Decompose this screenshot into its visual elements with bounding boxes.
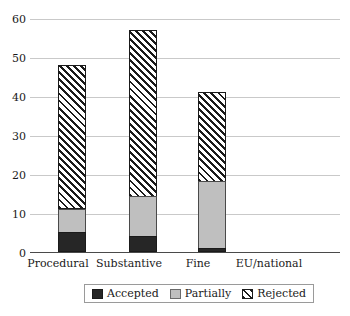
bar-segment-accepted [58, 232, 86, 252]
bar-segment-accepted [198, 248, 226, 252]
stacked-bar-chart: 60 50 40 30 20 10 0 [0, 0, 350, 316]
bar-segment-partially [198, 181, 226, 249]
bar-group-substantive [129, 30, 157, 252]
legend-swatch-partially-icon [170, 289, 181, 299]
x-axis-label-eu-national: EU/national [224, 258, 314, 270]
y-axis-tick-label-50: 50 [0, 53, 26, 64]
chart-legend: Accepted Partially Rejected [84, 284, 314, 303]
y-axis-tick-label-30: 30 [0, 131, 26, 142]
legend-swatch-rejected-icon [242, 289, 253, 299]
bar-group-procedural [58, 65, 86, 252]
legend-item-rejected: Rejected [242, 288, 306, 299]
bar-segment-partially [58, 209, 86, 233]
legend-label-rejected: Rejected [257, 288, 306, 299]
legend-label-partially: Partially [185, 288, 231, 299]
legend-item-partially: Partially [170, 288, 231, 299]
bar-segment-rejected [129, 30, 157, 197]
y-axis-tick-label-40: 40 [0, 92, 26, 103]
legend-label-accepted: Accepted [107, 288, 159, 299]
y-axis-tick-label-10: 10 [0, 209, 26, 220]
gridline-50 [30, 58, 340, 59]
bar-segment-rejected [58, 65, 86, 209]
bar-segment-rejected [198, 92, 226, 182]
x-axis-baseline [30, 252, 340, 253]
bar-group-fine [198, 92, 226, 252]
legend-item-accepted: Accepted [92, 288, 159, 299]
legend-swatch-accepted-icon [92, 289, 103, 299]
y-axis-tick-label-60: 60 [0, 14, 26, 25]
bar-segment-partially [129, 196, 157, 237]
gridline-60 [30, 19, 340, 20]
bar-segment-accepted [129, 236, 157, 252]
plot-area [30, 19, 340, 253]
y-axis-tick-label-20: 20 [0, 170, 26, 181]
